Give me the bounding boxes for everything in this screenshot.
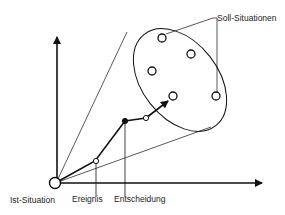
intermediate-node [143, 115, 148, 120]
target-situation-circle [148, 67, 156, 75]
label-leader-line [166, 18, 217, 34]
decision-node [122, 118, 127, 123]
target-situation-circle [169, 92, 177, 100]
cone-lower-line [58, 127, 211, 182]
development-path [57, 118, 146, 182]
current-situation-label: Ist-Situation [10, 195, 55, 205]
target-situation-circle [158, 34, 166, 42]
cone-upper-line [57, 32, 127, 181]
current-situation-circle [50, 178, 61, 189]
path-arrow [146, 101, 168, 118]
event-label: Ereignis [72, 194, 103, 204]
event-node [93, 158, 98, 163]
target-situation-circle [212, 92, 220, 100]
target-situation-circle [187, 50, 195, 58]
situation-diagram: Soll-Situationen Ist-Situation Ereignis … [0, 0, 285, 215]
decision-label: Entscheidung [114, 194, 166, 204]
target-situations-label: Soll-Situationen [217, 13, 277, 23]
target-region-ellipse [114, 11, 245, 149]
